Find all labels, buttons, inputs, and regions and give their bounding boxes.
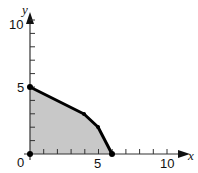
feasible-region xyxy=(30,87,112,154)
feasible-region-chart: 0 5 10 5 10 x y xyxy=(0,0,198,173)
y-tick-label-10: 10 xyxy=(9,17,23,32)
x-tick-label-5: 5 xyxy=(94,156,101,171)
vertex-point xyxy=(109,151,115,157)
vertex-point xyxy=(27,84,33,90)
vertex-point xyxy=(96,125,100,129)
vertex-point xyxy=(82,112,86,116)
x-axis-label: x xyxy=(187,148,194,163)
y-tick-label-5: 5 xyxy=(17,80,24,95)
origin-label: 0 xyxy=(17,155,24,170)
vertex-point xyxy=(27,151,33,157)
y-axis-label: y xyxy=(20,2,28,17)
x-tick-label-10: 10 xyxy=(160,156,174,171)
